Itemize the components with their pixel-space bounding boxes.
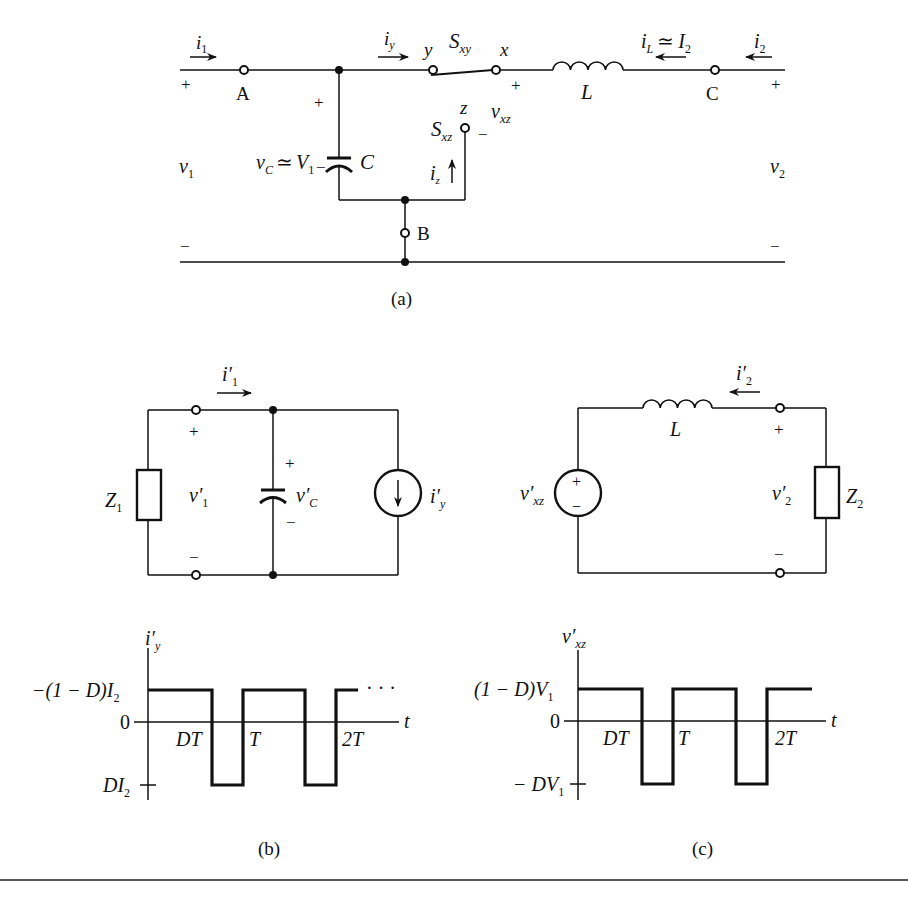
impedance-Z1 xyxy=(137,470,161,520)
x-tick-T: T xyxy=(249,728,262,750)
minus-sign: − xyxy=(286,513,296,532)
node-z xyxy=(461,124,469,132)
label-node-x: x xyxy=(499,39,509,60)
label-Z1: Z1 xyxy=(105,489,122,515)
y-tick-label-high: (1 − D)V1 xyxy=(474,678,553,704)
switch-sxy-blade xyxy=(431,70,493,75)
label-i2-prime: i′2 xyxy=(736,362,752,388)
label-node-z: z xyxy=(459,97,468,118)
label-node-y: y xyxy=(422,39,433,60)
label-v1: v1 xyxy=(179,155,194,181)
plus-sign: + xyxy=(181,75,191,94)
plus-sign: + xyxy=(511,76,521,95)
label-iy-prime: i′y xyxy=(430,485,446,511)
label-vC: vC≃V1 xyxy=(256,151,314,177)
label-iz: iz xyxy=(430,162,441,186)
minus-sign: − xyxy=(770,237,780,256)
plus-sign: + xyxy=(189,422,199,441)
plus-sign: + xyxy=(771,75,781,94)
label-Z2: Z2 xyxy=(846,485,863,511)
circuit-b: i′1 + Z1 v′1 − + v′C − i′y xyxy=(105,363,446,579)
plus-sign: + xyxy=(285,454,295,473)
waveform-b: i′y −(1 − D)I2 0 DI2 t DT T 2T · · · (b) xyxy=(32,627,410,860)
caption-b: (b) xyxy=(258,838,280,860)
label-node-B: B xyxy=(417,223,430,244)
impedance-Z2 xyxy=(815,467,839,518)
y-tick-label-high: −(1 − D)I2 xyxy=(32,679,119,705)
terminal-node xyxy=(192,406,200,414)
terminal-node xyxy=(776,569,784,577)
minus-sign: − xyxy=(774,545,784,564)
plus-sign: + xyxy=(314,93,324,112)
label-i1-prime: i′1 xyxy=(222,363,238,389)
x-tick-DT: DT xyxy=(175,728,203,750)
y-tick-label-low: DI2 xyxy=(102,774,130,800)
node-y xyxy=(429,66,437,74)
terminal-node xyxy=(776,404,784,412)
x-axis-label-t: t xyxy=(831,709,837,731)
minus-sign: − xyxy=(478,125,488,144)
label-i2: i2 xyxy=(754,30,766,56)
node-A xyxy=(240,66,248,74)
label-node-A: A xyxy=(236,83,250,104)
circuit-c: + − i′2 L + v′xz v′2 − Z2 xyxy=(520,362,863,577)
label-node-C: C xyxy=(706,83,719,104)
x-axis-label-t: t xyxy=(404,710,410,732)
label-L: L xyxy=(669,418,681,440)
plus-sign: + xyxy=(774,420,784,439)
waveform-c: v′xz (1 − D)V1 0 − DV1 t DT T 2T (c) xyxy=(474,625,837,860)
x-tick-2T: 2T xyxy=(342,728,365,750)
label-v2-prime: v′2 xyxy=(772,482,791,508)
x-tick-2T: 2T xyxy=(775,727,798,749)
node-C xyxy=(711,66,719,74)
label-v2: v2 xyxy=(770,155,785,181)
y-tick-label-zero: 0 xyxy=(550,710,560,732)
y-tick-label-zero: 0 xyxy=(120,711,130,733)
figure-canvas: i1 iy y Sxy x + L iL≃I2 i2 + + A C + vC≃… xyxy=(0,0,908,904)
ylabel-vxz-prime: v′xz xyxy=(562,625,586,651)
label-vC-prime: v′C xyxy=(296,484,318,510)
x-tick-T: T xyxy=(678,727,691,749)
node-B xyxy=(401,229,409,237)
minus-sign: − xyxy=(572,498,581,515)
junction-dot xyxy=(401,258,409,266)
label-v1-prime: v′1 xyxy=(189,484,208,510)
node-x xyxy=(492,66,500,74)
y-tick-label-low: − DV1 xyxy=(513,773,564,799)
x-tick-DT: DT xyxy=(602,727,630,749)
label-iy: iy xyxy=(384,28,395,52)
minus-sign: − xyxy=(180,237,190,256)
label-vxz-prime: v′xz xyxy=(520,482,544,508)
inductor-L xyxy=(643,400,712,408)
label-C: C xyxy=(360,150,375,174)
minus-sign: − xyxy=(189,548,199,567)
circuit-a: i1 iy y Sxy x + L iL≃I2 i2 + + A C + vC≃… xyxy=(179,28,785,310)
label-vxz: vxz xyxy=(491,100,511,126)
inductor-L xyxy=(553,62,623,70)
label-i1: i1 xyxy=(196,32,207,56)
terminal-node xyxy=(192,571,200,579)
minus-sign: − xyxy=(316,158,326,177)
plus-sign: + xyxy=(572,473,581,490)
caption-c: (c) xyxy=(692,838,713,860)
label-sxz: Sxz xyxy=(431,117,452,144)
label-iL: iL≃I2 xyxy=(641,30,691,56)
label-sxy: Sxy xyxy=(449,29,471,56)
label-L: L xyxy=(580,80,593,104)
ellipsis: · · · xyxy=(366,677,396,699)
caption-a: (a) xyxy=(391,288,412,310)
